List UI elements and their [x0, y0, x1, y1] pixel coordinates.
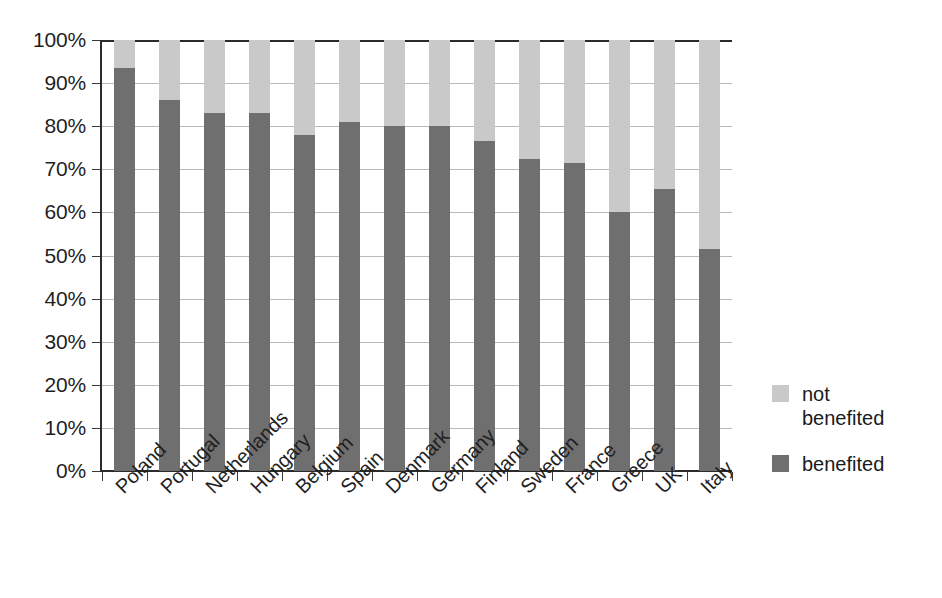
y-tick-label: 20%	[45, 373, 86, 397]
legend-label: not benefited	[802, 382, 884, 430]
bar-segment-benefited	[114, 68, 135, 471]
legend-label: benefited	[802, 452, 884, 476]
bar-stack[interactable]	[204, 40, 225, 471]
y-tick-label: 90%	[45, 71, 86, 95]
y-tick-label: 100%	[33, 28, 86, 52]
bar-stack[interactable]	[609, 40, 630, 471]
bar-segment-not-benefited	[114, 40, 135, 68]
bar-segment-not-benefited	[384, 40, 405, 126]
bar-segment-benefited	[204, 113, 225, 471]
chart-legend: not benefitedbenefited	[772, 382, 942, 498]
bar-stack[interactable]	[519, 40, 540, 471]
bar-segment-not-benefited	[429, 40, 450, 126]
bar-stack[interactable]	[474, 40, 495, 471]
bar-segment-benefited	[294, 135, 315, 471]
bar-slot	[372, 40, 417, 471]
bar-slot	[282, 40, 327, 471]
bar-segment-benefited	[609, 212, 630, 471]
bar-stack[interactable]	[249, 40, 270, 471]
bar-slot	[462, 40, 507, 471]
bar-segment-benefited	[654, 189, 675, 471]
bar-segment-not-benefited	[249, 40, 270, 113]
x-axis-labels: PolandPortugalNetherlandsHungaryBelgiumS…	[102, 482, 802, 598]
bar-segment-not-benefited	[294, 40, 315, 135]
y-tick-label: 0%	[56, 459, 86, 483]
y-tick-label: 80%	[45, 114, 86, 138]
bar-stack[interactable]	[699, 40, 720, 471]
y-tick-label: 60%	[45, 200, 86, 224]
bar-slot	[192, 40, 237, 471]
bar-stack[interactable]	[159, 40, 180, 471]
y-tick-label: 40%	[45, 287, 86, 311]
bar-slot	[327, 40, 372, 471]
bar-segment-not-benefited	[654, 40, 675, 189]
bar-segment-benefited	[564, 163, 585, 471]
bar-stack[interactable]	[294, 40, 315, 471]
stacked-bar-chart: 100%90%80%70%60%50%40%30%20%10%0% Poland…	[0, 0, 942, 598]
bar-stack[interactable]	[564, 40, 585, 471]
bar-slot	[687, 40, 732, 471]
bar-segment-not-benefited	[474, 40, 495, 141]
bar-slot	[102, 40, 147, 471]
bar-segment-not-benefited	[159, 40, 180, 100]
bar-segment-benefited	[519, 159, 540, 471]
bar-slot	[642, 40, 687, 471]
bar-segment-not-benefited	[564, 40, 585, 163]
y-tick-label: 50%	[45, 244, 86, 268]
bar-segment-benefited	[474, 141, 495, 471]
y-tick-label: 10%	[45, 416, 86, 440]
legend-item-benefited[interactable]: benefited	[772, 452, 942, 476]
bar-segment-not-benefited	[204, 40, 225, 113]
bar-segment-not-benefited	[339, 40, 360, 122]
bar-stack[interactable]	[384, 40, 405, 471]
bar-segment-not-benefited	[699, 40, 720, 249]
bar-segment-not-benefited	[519, 40, 540, 159]
bar-segment-not-benefited	[609, 40, 630, 212]
y-tick-label: 70%	[45, 157, 86, 181]
bar-stack[interactable]	[339, 40, 360, 471]
bar-segment-benefited	[384, 126, 405, 471]
bar-slot	[147, 40, 192, 471]
y-tick-label: 30%	[45, 330, 86, 354]
bar-stack[interactable]	[654, 40, 675, 471]
bar-slot	[597, 40, 642, 471]
bar-slot	[507, 40, 552, 471]
plot-area	[102, 40, 732, 471]
y-axis: 100%90%80%70%60%50%40%30%20%10%0%	[0, 0, 100, 598]
bar-segment-benefited	[159, 100, 180, 471]
bar-segment-benefited	[339, 122, 360, 471]
bar-stack[interactable]	[429, 40, 450, 471]
bar-stack[interactable]	[114, 40, 135, 471]
x-tick-mark	[102, 472, 103, 481]
bar-segment-benefited	[699, 249, 720, 471]
bar-series-container	[102, 40, 732, 471]
legend-swatch-icon	[772, 385, 789, 402]
bar-segment-benefited	[429, 126, 450, 471]
legend-item-not-benefited[interactable]: not benefited	[772, 382, 942, 430]
legend-swatch-icon	[772, 455, 789, 472]
bar-slot	[417, 40, 462, 471]
x-tick-mark	[687, 472, 688, 481]
bar-slot	[552, 40, 597, 471]
